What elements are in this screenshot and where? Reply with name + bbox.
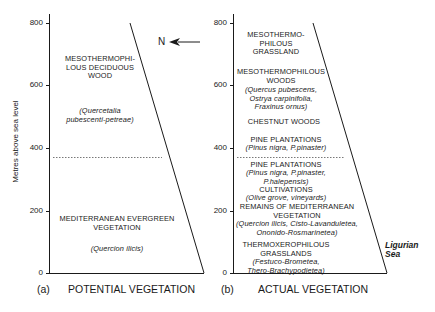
zone-a-deciduous-name: MESOTHERMOPHI- LOUS DECIDUOUS WOOD <box>55 55 145 81</box>
zone-b-pine2-latin: (Pinus nigra, P.pinaster, P.halepensis) <box>234 169 338 186</box>
tick-200: 200 <box>19 206 43 215</box>
tick-200-b: 200 <box>203 206 227 215</box>
tick-400: 400 <box>19 143 43 152</box>
zone-b-grassland-name: MESOTHERMO- PHILOUS GRASSLAND <box>234 31 318 57</box>
tick-0: 0 <box>19 268 43 277</box>
y-axis-label: Metres above sea level <box>11 87 20 197</box>
zone-b-pine1-latin: (Pinus nigra, P.pinaster) <box>234 144 338 153</box>
north-label: N <box>158 36 165 47</box>
zone-b-mediterranean-latin: (Quercion ilicis, Cisto-Lavanduletea, On… <box>234 220 360 237</box>
sea-label: Ligurian Sea <box>385 241 419 259</box>
panel-a-title: POTENTIAL VEGETATION <box>68 283 195 295</box>
zone-b-chestnut-name: CHESTNUT WOODS <box>234 118 334 127</box>
tick-400-b: 400 <box>203 143 227 152</box>
zone-b-woods-name: MESOTHERMOPHILOUS WOODS <box>234 68 328 85</box>
tick-800-b: 800 <box>203 18 227 27</box>
tick-0-b: 0 <box>203 268 227 277</box>
zone-b-mediterranean-name: REMAINS OF MEDITERRANEAN VEGETATION <box>234 203 360 220</box>
zone-b-thermo-latin: (Festuco-Brometea, Thero-Brachypodietea) <box>234 258 338 275</box>
tick-600: 600 <box>19 80 43 89</box>
tick-800: 800 <box>19 18 43 27</box>
panel-b-title: ACTUAL VEGETATION <box>258 283 368 295</box>
zone-a-evergreen-latin: (Quercion ilicis) <box>72 245 162 254</box>
arrow-left-icon <box>169 38 200 46</box>
panel-b-letter: (b) <box>221 283 234 295</box>
zone-a-evergreen-name: MEDITERRANEAN EVERGREEN VEGETATION <box>52 215 182 232</box>
zone-a-deciduous-latin: (Quercetalia pubescenti-petreae) <box>55 107 145 124</box>
zone-b-thermo-name: THERMOXEROPHILOUS GRASSLANDS <box>234 241 338 258</box>
zone-b-woods-latin: (Quercus pubescens, Ostrya carpinifolia,… <box>234 86 328 112</box>
diagram-lines <box>0 0 435 312</box>
panel-a-letter: (a) <box>37 283 50 295</box>
tick-600-b: 600 <box>203 80 227 89</box>
